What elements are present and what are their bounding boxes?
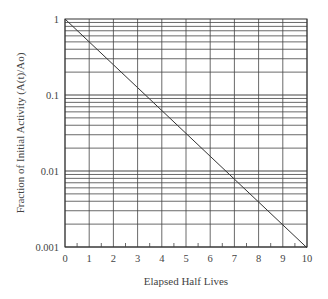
x-tick-label: 9 [280,253,285,264]
x-tick-label: 8 [256,253,261,264]
x-tick-label: 7 [232,253,237,264]
x-tick-label: 3 [135,253,140,264]
y-tick-label: 0.01 [41,166,59,177]
x-tick-label: 5 [183,253,188,264]
x-tick-label: 0 [62,253,67,264]
x-axis-label: Elapsed Half Lives [144,275,228,287]
x-tick-label: 6 [208,253,213,264]
y-axis-ticks: 10.10.010.001 [35,14,59,253]
x-tick-label: 1 [87,253,92,264]
x-axis-ticks: 012345678910 [62,243,312,264]
y-tick-label: 0.001 [35,242,59,253]
y-tick-label: 1 [54,14,59,25]
y-axis-label: Fraction of Initial Activity (A(t)/Ao) [14,52,27,213]
y-tick-label: 0.1 [46,90,59,101]
x-tick-label: 10 [302,253,313,264]
decay-chart: 012345678910 10.10.010.001 Elapsed Half … [0,0,328,299]
x-tick-label: 4 [159,253,165,264]
x-tick-label: 2 [111,253,116,264]
